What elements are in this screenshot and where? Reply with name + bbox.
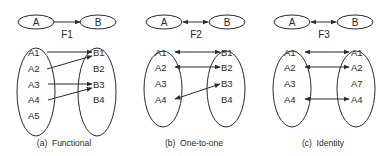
set-a-element: A4 [155,94,167,105]
entity-b-label: B [95,17,102,28]
panel-identity: A B F3 A1 A2 A3 A4 A1 A2 A7 A4 (c) Ident… [273,15,375,148]
set-a-element: A3 [28,79,40,90]
set-a-element: A2 [284,62,296,73]
top-relation: A B F3 [274,15,373,40]
top-relation: A B F1 [18,15,116,40]
set-b-element: B2 [221,62,233,73]
set-b-element: B1 [93,47,105,58]
set-b-element: B3 [221,78,233,89]
caption: (c) Identity [302,138,345,148]
set-b-ellipse [78,48,116,136]
panel-one-to-one: A B F2 A1 A2 A3 A4 B1 B2 B3 B4 (b) One-t… [144,15,245,148]
set-a-element: A4 [28,94,40,105]
top-relation: A B F2 [146,15,245,40]
set-b-element: A7 [351,78,363,89]
relation-label: F1 [61,29,73,40]
set-b-element: B2 [93,63,105,74]
set-a-element: A3 [284,78,296,89]
set-a-element: A4 [284,94,296,105]
set-a-element: A1 [28,47,40,58]
set-a-element: A3 [155,78,167,89]
set-b-element: B4 [93,94,105,105]
mapping-diagram: A B F1 A1 A2 A3 A4 A5 B1 B2 B3 B4 (a) Fu… [0,0,389,156]
set-b-element: A4 [351,94,363,105]
caption: (a) Functional [37,138,91,148]
set-a-element: A1 [284,47,296,58]
set-b-element: B3 [93,79,105,90]
entity-a-label: A [289,17,296,28]
panel-functional: A B F1 A1 A2 A3 A4 A5 B1 B2 B3 B4 (a) Fu… [17,15,116,148]
mapping-arrow-icon [47,56,92,69]
caption: (b) One-to-one [165,138,223,148]
entity-a-label: A [33,17,40,28]
entity-b-label: B [352,17,359,28]
set-a-element: A1 [155,47,167,58]
relation-label: F3 [318,29,330,40]
set-a-element: A2 [28,63,40,74]
set-a-element: A5 [28,110,40,121]
entity-b-label: B [224,17,231,28]
set-b-element: B4 [221,94,233,105]
set-b-element: A1 [351,47,363,58]
set-b-element: A2 [351,62,363,73]
set-b-element: B1 [221,47,233,58]
relation-label: F2 [190,29,202,40]
set-a-element: A2 [155,62,167,73]
entity-a-label: A [161,17,168,28]
set-a-ellipse [17,48,55,136]
